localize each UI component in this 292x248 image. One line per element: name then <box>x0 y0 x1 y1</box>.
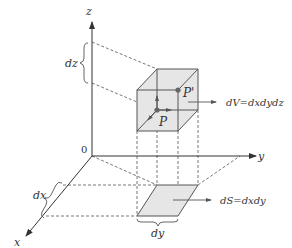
volume-element-diagram: z y x 0 dz dx dy P P' dV=dxdydz dS=dxdy <box>0 0 292 248</box>
dz-label: dz <box>65 57 78 70</box>
origin-label: 0 <box>81 144 87 155</box>
dy-brace <box>137 219 178 226</box>
x-axis-label: x <box>14 236 21 248</box>
area-label: dS=dxdy <box>220 195 266 206</box>
y-axis-label: y <box>257 150 265 163</box>
dy-label: dy <box>151 227 165 240</box>
point-p <box>154 107 159 112</box>
p-prime-label: P' <box>182 86 194 100</box>
dx-label: dx <box>33 189 47 202</box>
point-p-prime <box>175 87 180 92</box>
area-element-ds <box>137 185 198 216</box>
z-axis-label: z <box>85 5 92 18</box>
p-label: P <box>158 115 168 129</box>
volume-label: dV=dxdydz <box>226 97 284 108</box>
dz-brace <box>80 43 88 83</box>
volume-element-cube <box>137 69 198 131</box>
